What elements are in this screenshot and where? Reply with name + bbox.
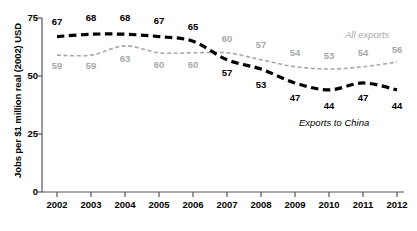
data-label-allexports-2009: 54: [280, 47, 310, 58]
data-label-china-2003: 68: [76, 12, 106, 23]
data-label-allexports-2008: 57: [246, 39, 276, 50]
data-label-allexports-2005: 60: [144, 59, 174, 70]
data-label-allexports-2011: 54: [348, 47, 378, 58]
data-label-china-2009: 47: [280, 92, 310, 103]
data-label-allexports-2004: 63: [110, 53, 140, 64]
data-label-allexports-2002: 59: [42, 60, 72, 71]
data-label-allexports-2003: 59: [76, 60, 106, 71]
data-label-china-2004: 68: [110, 12, 140, 23]
data-label-allexports-2012: 56: [382, 44, 412, 55]
data-label-china-2002: 67: [42, 16, 72, 27]
x-tick-marks: [57, 192, 397, 197]
data-label-china-2011: 47: [348, 92, 378, 103]
series-annotation-all-exports: All exports: [345, 29, 389, 40]
data-label-china-2007: 57: [212, 67, 242, 78]
data-label-china-2006: 65: [178, 21, 208, 32]
data-label-china-2012: 44: [382, 100, 412, 111]
x-tick-label-2012: 2012: [377, 199, 417, 210]
data-label-china-2005: 67: [144, 15, 174, 26]
data-label-china-2010: 44: [314, 100, 344, 111]
data-label-allexports-2007: 60: [212, 33, 242, 44]
data-label-allexports-2006: 60: [178, 59, 208, 70]
chart-container: Jobs per $1 million real (2002) USD 75 5…: [0, 0, 417, 231]
series-annotation-exports-to-china: Exports to China: [299, 117, 369, 128]
series-line-all-exports: [57, 46, 397, 69]
data-label-china-2008: 53: [246, 79, 276, 90]
data-label-allexports-2010: 53: [314, 50, 344, 61]
